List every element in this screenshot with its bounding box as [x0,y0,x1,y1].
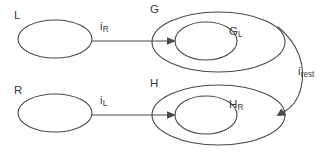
node-R-label: R [14,85,22,97]
edge-i-L-arrowhead [167,111,176,119]
diagram-canvas: L R G H GL HR iR iL irest [0,0,333,153]
edge-i-L-label: iL [100,95,107,107]
edge-i-rest-label-subscript: rest [301,70,315,79]
edge-i-R-label-subscript: R [103,25,109,34]
node-H-R-label-subscript: R [237,103,243,112]
node-L-label: L [14,10,21,22]
node-G-L-inner-ellipse [175,22,237,60]
edge-i-R-label: iR [100,21,109,33]
node-H-R-label: HR [229,99,243,111]
edge-i-rest-label: irest [298,66,314,78]
node-R-ellipse [18,94,92,132]
node-G-L-label-subscript: L [238,30,243,39]
node-G-label: G [150,4,159,16]
edge-i-L-label-subscript: L [103,99,108,108]
diagram-vector-layer [0,0,333,153]
node-H-R-inner-ellipse [175,96,237,134]
edge-i-R-arrowhead [167,37,176,45]
node-H-label: H [150,78,158,90]
node-G-L-label: GL [229,26,243,38]
node-G-L-label-base: G [229,25,238,37]
node-L-ellipse [18,20,92,58]
